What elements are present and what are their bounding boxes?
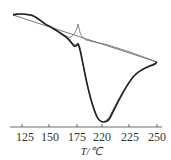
curve-thick <box>13 14 157 122</box>
x-tick-label: 125 <box>16 130 34 144</box>
x-tick-label: 175 <box>68 130 86 144</box>
baseline-line <box>13 15 157 62</box>
x-axis-ticks <box>22 124 157 127</box>
curve-thin-melt <box>68 38 157 122</box>
x-tick-label: 250 <box>148 130 166 144</box>
dsc-chart: 125 150 175 220 225 250 T/℃ <box>0 0 171 160</box>
x-tick-label: 225 <box>121 130 139 144</box>
x-tick-label: 220 <box>93 130 111 144</box>
x-axis-title: T/℃ <box>80 145 103 157</box>
x-tick-labels: 125 150 175 220 225 250 <box>16 130 166 144</box>
x-tick-label: 150 <box>41 130 59 144</box>
